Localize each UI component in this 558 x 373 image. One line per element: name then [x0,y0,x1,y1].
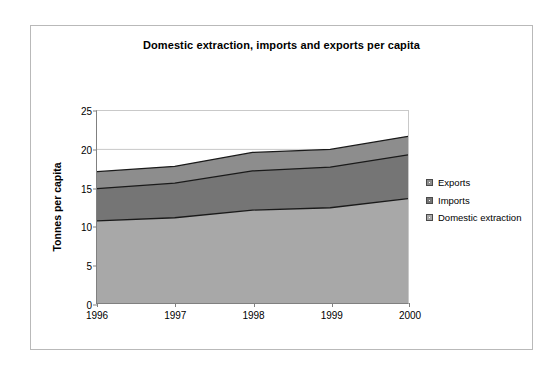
y-tick-mark [93,266,97,267]
legend-label: Imports [438,196,470,206]
y-axis-title-label: Tonnes per capita [51,162,63,251]
legend-item[interactable]: Exports [426,178,521,188]
y-tick-label: 25 [81,106,92,117]
legend-item[interactable]: Domestic extraction [426,213,521,223]
chart-figure-frame: Domestic extraction, imports and exports… [30,25,533,350]
x-tick-label: 1997 [164,310,186,321]
x-tick-mark [97,303,98,307]
y-axis-title: Tonnes per capita [49,110,65,304]
y-tick-mark [93,188,97,189]
y-tick-mark [93,111,97,112]
y-tick-label: 5 [86,261,92,272]
legend-swatch-icon [426,197,433,204]
stacked-area-plot [97,111,408,303]
y-tick-mark [93,227,97,228]
y-tick-label: 0 [86,300,92,311]
x-tick-label: 2000 [399,310,421,321]
legend-item[interactable]: Imports [426,196,521,206]
y-tick-label: 20 [81,144,92,155]
x-tick-mark [409,303,410,307]
x-tick-mark [175,303,176,307]
x-tick-mark [332,303,333,307]
x-tick-label: 1999 [321,310,343,321]
x-tick-label: 1996 [86,310,108,321]
y-tick-label: 15 [81,183,92,194]
chart-legend: ExportsImportsDomestic extraction [426,178,521,231]
legend-label: Domestic extraction [438,213,521,223]
x-tick-label: 1998 [242,310,264,321]
x-tick-mark [254,303,255,307]
y-tick-mark [93,149,97,150]
legend-swatch-icon [426,214,433,221]
legend-label: Exports [438,178,470,188]
y-tick-label: 10 [81,222,92,233]
legend-swatch-icon [426,179,433,186]
chart-title: Domestic extraction, imports and exports… [31,39,532,51]
plot-area: 0510152025 19961997199819992000 [96,110,409,304]
